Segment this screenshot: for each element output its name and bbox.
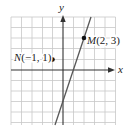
y-axis-arrow-icon (60, 15, 65, 22)
point-n-coords: (−1, 1) (21, 51, 51, 64)
point-n-label: N(−1, 1) (13, 51, 52, 64)
point-m-marker (82, 36, 87, 41)
coordinate-plane: x y N(−1, 1) M(2, 3) (0, 0, 130, 130)
x-axis-arrow-icon (108, 67, 115, 72)
graph-line (55, 17, 91, 125)
point-m-label: M(2, 3) (86, 34, 120, 47)
y-axis-label: y (58, 1, 64, 13)
point-m-coords: (2, 3) (96, 34, 120, 47)
x-axis-label: x (117, 63, 123, 75)
